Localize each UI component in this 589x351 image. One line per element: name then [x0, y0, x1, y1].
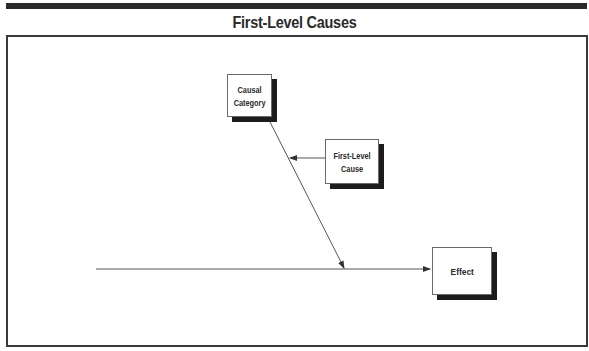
causal-category-line1: Causal [234, 83, 266, 96]
effect-label: Effect [450, 265, 473, 278]
causal-category-line2: Category [234, 96, 266, 109]
connector-lines [0, 0, 589, 351]
effect-box: Effect [432, 247, 492, 295]
first-level-cause-line2: Cause [333, 162, 370, 175]
first-level-cause-box: First-Level Cause [325, 139, 379, 184]
causal-category-box: Causal Category [227, 74, 272, 117]
first-level-cause-line1: First-Level [333, 149, 370, 162]
